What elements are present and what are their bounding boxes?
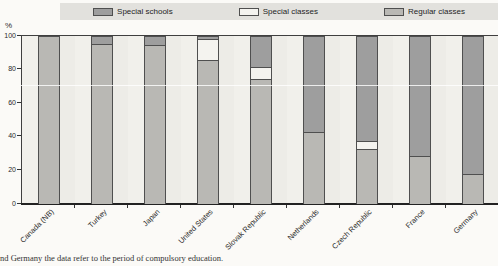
regular-classes-swatch-icon xyxy=(384,8,404,16)
y-axis-tick xyxy=(17,35,21,36)
x-axis-tick xyxy=(74,205,75,208)
y-axis-tick xyxy=(17,169,21,170)
legend-label-regular-classes: Regular classes xyxy=(408,8,465,16)
x-axis-tick xyxy=(286,205,287,208)
x-axis-tick xyxy=(233,205,234,208)
bar-segment-special-classes xyxy=(357,141,377,149)
y-axis-tick-label: 40 xyxy=(2,132,16,139)
bar-segment-special-classes xyxy=(251,67,271,79)
bar-segment-regular-classes xyxy=(357,149,377,204)
bar-segment-special-classes xyxy=(198,39,218,61)
special-schools-swatch-icon xyxy=(93,8,113,16)
legend-label-special-classes: Special classes xyxy=(263,8,318,16)
y-axis-tick-label: 60 xyxy=(2,99,16,106)
bar-segment-special-schools xyxy=(357,37,377,141)
horizontal-artifact-line xyxy=(21,85,498,86)
bar-segment-special-schools xyxy=(145,37,165,45)
bar-segment-regular-classes xyxy=(92,44,112,204)
y-axis-tick xyxy=(17,68,21,69)
bar-segment-regular-classes xyxy=(251,79,271,204)
legend-item-special-classes: Special classes xyxy=(239,8,318,16)
y-axis-tick-label: 0 xyxy=(2,200,16,207)
stacked-bar-turkey xyxy=(91,36,113,204)
y-axis-tick-label: 80 xyxy=(2,65,16,72)
y-axis-tick xyxy=(17,102,21,103)
y-axis-tick-label: 20 xyxy=(2,166,16,173)
plot-area xyxy=(21,35,498,204)
stacked-bar-japan xyxy=(144,36,166,204)
bar-segment-special-schools xyxy=(251,37,271,67)
bar-segment-regular-classes xyxy=(410,156,430,204)
y-axis-tick xyxy=(17,135,21,136)
legend: Special schools Special classes Regular … xyxy=(60,3,498,20)
stacked-bar-united-states xyxy=(197,36,219,204)
legend-label-special-schools: Special schools xyxy=(117,8,173,16)
legend-item-special-schools: Special schools xyxy=(93,8,173,16)
x-axis-tick xyxy=(180,205,181,208)
x-axis-tick xyxy=(127,205,128,208)
bar-segment-regular-classes xyxy=(39,37,59,204)
y-axis-tick xyxy=(17,203,21,204)
legend-item-regular-classes: Regular classes xyxy=(384,8,465,16)
y-axis-tick-label: 100 xyxy=(2,32,16,39)
stacked-bar-slovak-republic xyxy=(250,36,272,204)
stacked-bar-germany xyxy=(462,36,484,204)
y-axis-unit-label: % xyxy=(5,21,12,30)
stacked-bar-netherlands xyxy=(303,36,325,204)
x-axis-tick xyxy=(339,205,340,208)
chart-page: Special schools Special classes Regular … xyxy=(0,0,498,266)
bar-segment-regular-classes xyxy=(304,132,324,204)
bar-segment-regular-classes xyxy=(198,60,218,204)
bar-segment-regular-classes xyxy=(145,45,165,204)
special-classes-swatch-icon xyxy=(239,8,259,16)
stacked-bar-czech-republic xyxy=(356,36,378,204)
bar-segment-regular-classes xyxy=(463,174,483,204)
x-axis-tick xyxy=(445,205,446,208)
stacked-bar-canada-nb- xyxy=(38,36,60,204)
bar-segment-special-schools xyxy=(463,37,483,174)
bar-segment-special-schools xyxy=(92,37,112,44)
x-axis-tick xyxy=(392,205,393,208)
stacked-bar-france xyxy=(409,36,431,204)
bar-segment-special-schools xyxy=(410,37,430,156)
